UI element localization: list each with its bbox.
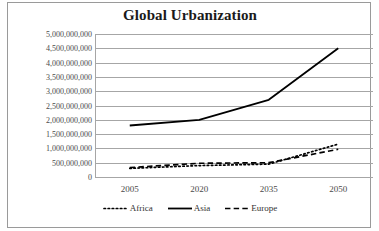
y-tick-label: 5,000,000,000 xyxy=(8,30,92,39)
y-tick-label: 0 xyxy=(8,173,92,182)
y-tick-label: 4,500,000,000 xyxy=(8,44,92,53)
y-tick-label: 3,500,000,000 xyxy=(8,73,92,82)
y-tick-label: 2,000,000,000 xyxy=(8,116,92,125)
legend-item-asia[interactable]: Asia xyxy=(167,203,211,213)
legend-item-europe[interactable]: Europe xyxy=(224,203,277,213)
x-tick-label: 2050 xyxy=(308,184,368,194)
legend-label: Africa xyxy=(129,203,153,213)
x-tick-label: 2020 xyxy=(169,184,229,194)
y-tick-label: 500,000,000 xyxy=(8,159,92,168)
y-tick-label: 4,000,000,000 xyxy=(8,59,92,68)
y-tick-label: 3,000,000,000 xyxy=(8,87,92,96)
series-line-asia xyxy=(130,48,339,125)
x-tick-label: 2005 xyxy=(100,184,160,194)
legend-swatch-africa xyxy=(103,204,129,213)
legend-label: Europe xyxy=(250,203,277,213)
plot-area xyxy=(95,34,373,177)
legend-swatch-europe xyxy=(224,204,250,213)
legend-item-africa[interactable]: Africa xyxy=(103,203,153,213)
gridline xyxy=(95,177,373,178)
y-axis-tick-labels: 5,000,000,0004,500,000,0004,000,000,0003… xyxy=(8,3,92,229)
series-lines xyxy=(95,34,373,177)
series-line-africa xyxy=(130,144,339,168)
chart-frame: Global Urbanization 5,000,000,0004,500,0… xyxy=(7,2,371,228)
legend-swatch-asia xyxy=(167,204,193,213)
y-tick-label: 2,500,000,000 xyxy=(8,102,92,111)
y-tick-label: 1,000,000,000 xyxy=(8,144,92,153)
chart-legend: AfricaAsiaEurope xyxy=(8,203,372,213)
y-tick-label: 1,500,000,000 xyxy=(8,130,92,139)
legend-label: Asia xyxy=(193,203,211,213)
x-tick-label: 2035 xyxy=(239,184,299,194)
